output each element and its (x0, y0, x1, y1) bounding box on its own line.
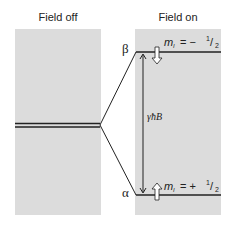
svg-text:= +: = + (180, 180, 196, 192)
svg-text:/: / (210, 36, 214, 48)
gap-label: γħB (147, 111, 162, 122)
svg-text:= −: = − (180, 36, 196, 48)
split-line-upper (100, 52, 136, 125)
alpha-label: α (122, 185, 129, 200)
split-line-lower (100, 125, 136, 195)
svg-text:/: / (210, 180, 214, 192)
spin-up-arrow-icon (152, 183, 162, 200)
beta-label: β (122, 41, 129, 56)
svg-text:m: m (164, 36, 173, 48)
energy-gap-arrow (140, 54, 146, 193)
svg-text:2: 2 (215, 186, 219, 193)
svg-text:I: I (173, 43, 175, 49)
degenerate-level (15, 124, 100, 128)
svg-text:m: m (164, 180, 173, 192)
energy-level-diagram: β α γħB m I = − 1 / 2 m I = + 1 / 2 (0, 0, 237, 228)
svg-text:I: I (173, 187, 175, 193)
spin-down-arrow-icon (152, 47, 162, 64)
upper-mi-label: m I = − 1 / 2 (164, 35, 219, 49)
svg-text:2: 2 (215, 42, 219, 49)
lower-mi-label: m I = + 1 / 2 (164, 179, 219, 193)
